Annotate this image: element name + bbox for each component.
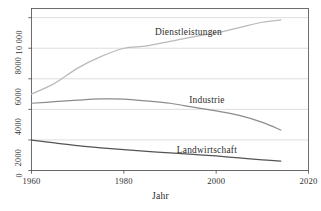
x-tick-label: 2020	[300, 177, 318, 186]
x-axis-title: Jahr	[0, 191, 321, 201]
x-tick-label: 1960	[23, 177, 41, 186]
y-tick-label: 10 000	[16, 30, 24, 54]
x-tick-label: 1980	[115, 177, 133, 186]
gridlines-group	[32, 18, 309, 171]
series-label-dienstleistungen: Dienstleistungen	[155, 28, 222, 37]
y-tick-label: 6000	[16, 88, 24, 106]
series-label-landwirtschaft: Landwirtschaft	[177, 146, 237, 155]
series-line-1	[32, 99, 281, 130]
series-line-2	[32, 140, 281, 161]
y-tick-label: 2000	[16, 149, 24, 167]
series-label-industrie: Industrie	[189, 96, 225, 105]
y-tick-label: 8000	[16, 57, 24, 75]
y-tick-label: 4000	[16, 118, 24, 136]
chart-figure: 0200040006000800010 000 1960198020002020…	[0, 0, 321, 211]
x-tick-label: 2000	[207, 177, 225, 186]
